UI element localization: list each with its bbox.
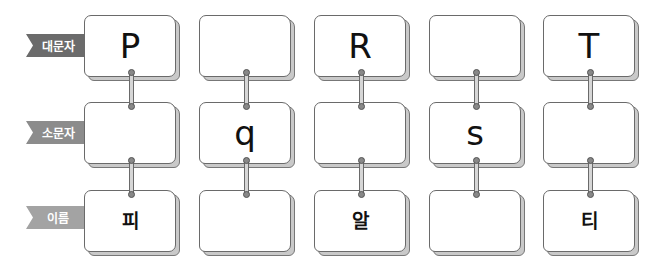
card-face: 피 <box>84 190 176 252</box>
card-text: s <box>466 116 484 150</box>
card-text: P <box>120 29 141 63</box>
ribbon-label: 소문자 <box>42 124 75 141</box>
ring-hole <box>587 157 594 164</box>
card-face: 티 <box>543 190 635 252</box>
ring-hole <box>243 191 250 198</box>
card-face <box>429 190 521 252</box>
ring-hole <box>128 103 135 110</box>
ribbon-label: 이름 <box>47 209 69 226</box>
card-name-4[interactable] <box>429 190 521 254</box>
ring-hole <box>473 191 480 198</box>
card-face: 알 <box>314 190 406 252</box>
card-face <box>429 15 521 77</box>
ribbon-name: 이름 <box>26 206 86 229</box>
card-face: q <box>199 102 291 164</box>
card-face <box>314 102 406 164</box>
ring-hole <box>358 69 365 76</box>
ring-hole <box>587 69 594 76</box>
ring-hole <box>473 157 480 164</box>
ring-hole <box>358 103 365 110</box>
ring-hole <box>587 103 594 110</box>
card-face: R <box>314 15 406 77</box>
card-face: P <box>84 15 176 77</box>
card-name-5[interactable]: 티 <box>543 190 635 254</box>
ring-hole <box>473 103 480 110</box>
card-face: s <box>429 102 521 164</box>
card-face: T <box>543 15 635 77</box>
ring-hole <box>243 103 250 110</box>
card-text: 알 <box>352 212 369 231</box>
card-text: R <box>348 29 372 63</box>
card-text: q <box>234 116 256 150</box>
ring-hole <box>358 191 365 198</box>
card-name-1[interactable]: 피 <box>84 190 176 254</box>
ring-hole <box>243 69 250 76</box>
card-text: 피 <box>122 212 139 231</box>
card-face <box>84 102 176 164</box>
ring-hole <box>128 191 135 198</box>
ring-hole <box>358 157 365 164</box>
card-face <box>199 15 291 77</box>
card-name-3[interactable]: 알 <box>314 190 406 254</box>
ribbon-label: 대문자 <box>42 37 75 54</box>
card-name-2[interactable] <box>199 190 291 254</box>
ribbon-lowercase: 소문자 <box>26 121 86 144</box>
ring-hole <box>587 191 594 198</box>
ring-hole <box>128 69 135 76</box>
card-face <box>199 190 291 252</box>
card-face <box>543 102 635 164</box>
ring-hole <box>473 69 480 76</box>
ribbon-uppercase: 대문자 <box>26 34 86 57</box>
card-text: T <box>579 29 600 63</box>
ring-hole <box>243 157 250 164</box>
ring-hole <box>128 157 135 164</box>
card-text: 티 <box>581 212 598 231</box>
